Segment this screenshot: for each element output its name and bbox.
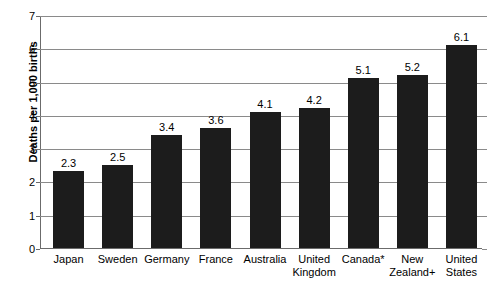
x-axis-category-label: Canada* xyxy=(342,253,385,266)
y-tick-label: 7 xyxy=(29,11,35,22)
y-tick-mark-right xyxy=(482,83,487,84)
y-tick-mark xyxy=(36,149,40,150)
y-tick-mark xyxy=(36,49,40,50)
category-label-line: United xyxy=(446,253,478,266)
bar[interactable] xyxy=(200,128,231,248)
bar[interactable] xyxy=(299,108,330,248)
x-axis-category-label: Japan xyxy=(54,253,84,266)
gridline xyxy=(40,49,482,50)
plot-area: 01234567 2.32.53.43.64.14.25.15.26.1 xyxy=(40,16,482,249)
y-tick-mark xyxy=(36,83,40,84)
y-tick-mark-right xyxy=(482,182,487,183)
category-label-line: Germany xyxy=(144,253,189,266)
category-label-line: Australia xyxy=(244,253,287,266)
y-tick-mark xyxy=(36,216,40,217)
bar[interactable] xyxy=(446,45,477,248)
bar[interactable] xyxy=(102,165,133,248)
bar[interactable] xyxy=(53,171,84,248)
category-label-line: Zealand+ xyxy=(389,266,435,279)
bar-value-label: 4.1 xyxy=(257,99,272,110)
y-tick-mark xyxy=(36,16,40,17)
category-label-line: Canada* xyxy=(342,253,385,266)
y-tick-mark-right xyxy=(482,216,487,217)
y-tick-label: 4 xyxy=(29,110,35,121)
x-axis-category-label: UnitedKingdom xyxy=(292,253,335,278)
bar-value-label: 3.6 xyxy=(208,115,223,126)
y-tick-mark-right xyxy=(482,49,487,50)
x-axis-line xyxy=(40,248,482,249)
bar-value-label: 3.4 xyxy=(159,122,174,133)
y-tick-mark-right xyxy=(482,16,487,17)
category-label-line: New xyxy=(389,253,435,266)
bar-value-label: 2.3 xyxy=(61,158,76,169)
y-tick-label: 5 xyxy=(29,77,35,88)
bar-value-label: 5.1 xyxy=(356,65,371,76)
y-tick-mark-right xyxy=(482,116,487,117)
x-axis-category-label: NewZealand+ xyxy=(389,253,435,278)
bar-value-label: 5.2 xyxy=(405,62,420,73)
y-tick-mark-right xyxy=(482,249,487,250)
category-label-line: Japan xyxy=(54,253,84,266)
category-label-line: States xyxy=(446,266,478,279)
infant-mortality-bar-chart: Deaths per 1,000 births 01234567 2.32.53… xyxy=(0,0,490,289)
bar-value-label: 2.5 xyxy=(110,152,125,163)
category-label-line: United xyxy=(292,253,335,266)
category-label-line: France xyxy=(199,253,233,266)
bar[interactable] xyxy=(250,112,281,248)
x-axis-category-label: Sweden xyxy=(98,253,138,266)
y-tick-label: 3 xyxy=(29,144,35,155)
bar[interactable] xyxy=(151,135,182,248)
y-tick-mark xyxy=(36,116,40,117)
gridline xyxy=(40,16,482,17)
bar[interactable] xyxy=(397,75,428,248)
y-tick-label: 1 xyxy=(29,210,35,221)
category-label-line: Sweden xyxy=(98,253,138,266)
x-axis-category-label: UnitedStates xyxy=(446,253,478,278)
y-tick-mark-right xyxy=(482,149,487,150)
x-axis-category-label: Germany xyxy=(144,253,189,266)
bar[interactable] xyxy=(348,78,379,248)
x-axis-category-label: France xyxy=(199,253,233,266)
y-axis-title: Deaths per 1,000 births xyxy=(27,7,39,197)
y-tick-label: 6 xyxy=(29,44,35,55)
category-label-line: Kingdom xyxy=(292,266,335,279)
x-axis-category-label: Australia xyxy=(244,253,287,266)
y-axis-line xyxy=(40,16,41,249)
y-tick-label: 0 xyxy=(29,244,35,255)
y-tick-mark xyxy=(36,182,40,183)
y-tick-label: 2 xyxy=(29,177,35,188)
bar-value-label: 4.2 xyxy=(306,95,321,106)
y-tick-mark xyxy=(36,249,40,250)
bar-value-label: 6.1 xyxy=(454,32,469,43)
